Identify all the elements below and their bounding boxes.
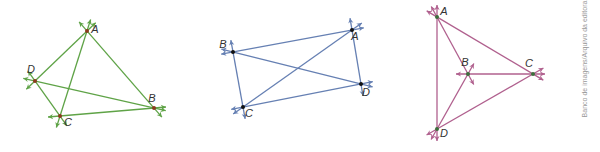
point-label-D: D bbox=[362, 86, 370, 98]
point-label-C: C bbox=[64, 116, 72, 128]
point-label-A: A bbox=[439, 5, 447, 17]
point-C bbox=[58, 114, 62, 118]
point-label-A: A bbox=[90, 23, 98, 35]
point-label-B: B bbox=[461, 56, 468, 68]
segment-AC bbox=[56, 20, 90, 128]
point-A bbox=[85, 29, 89, 33]
point-label-D: D bbox=[440, 127, 448, 139]
diagrams-canvas: ABCD ABCD ABCD bbox=[0, 0, 600, 152]
point-label-C: C bbox=[245, 107, 253, 119]
segment-AB bbox=[221, 28, 364, 54]
diagram-blue-quadrilateral: ABCD bbox=[219, 18, 372, 119]
point-B bbox=[231, 50, 235, 54]
segment-AC bbox=[427, 11, 544, 80]
segment-AD bbox=[26, 23, 95, 90]
segment-BD bbox=[221, 49, 372, 87]
point-label-C: C bbox=[525, 57, 533, 69]
image-credit: Banco de imagens/Arquivo da editora bbox=[578, 4, 590, 114]
diagram-pink-quadrilateral: ABCD bbox=[427, 5, 545, 141]
point-D bbox=[435, 127, 439, 131]
segment-CD bbox=[231, 82, 373, 110]
point-B bbox=[152, 106, 156, 110]
point-D bbox=[33, 79, 37, 83]
point-label-B: B bbox=[148, 92, 155, 104]
point-B bbox=[466, 72, 470, 76]
point-C bbox=[531, 72, 535, 76]
segment-CD bbox=[427, 68, 544, 135]
point-label-A: A bbox=[350, 30, 358, 42]
point-A bbox=[435, 15, 439, 19]
point-label-D: D bbox=[27, 63, 35, 75]
point-label-B: B bbox=[219, 38, 226, 50]
image-credit-text: Banco de imagens/Arquivo da editora bbox=[581, 1, 588, 118]
diagram-green-quadrilateral: ABCD bbox=[23, 20, 166, 128]
